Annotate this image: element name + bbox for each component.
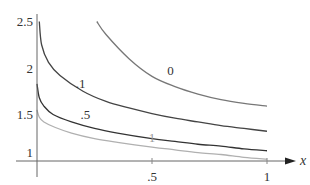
x-axis-label: x	[299, 153, 307, 168]
curve-label-3: 1	[149, 130, 156, 145]
chart: x .51 11.522.5 0.1.51	[0, 0, 310, 185]
y-tick-label: 1	[27, 145, 34, 160]
y-tick-label: 2	[27, 61, 34, 76]
y-ticks-group: 11.522.5	[17, 14, 33, 160]
y-tick-label: 1.5	[17, 107, 33, 122]
x-tick-label: .5	[147, 169, 157, 184]
curve-label-0: 0	[167, 63, 174, 78]
curve-label-2: .5	[80, 107, 90, 122]
curve-labels-group: 0.1.51	[76, 63, 174, 145]
curve-label-1: .1	[76, 76, 86, 91]
y-tick-label: 2.5	[17, 14, 33, 29]
x-axis-arrow-icon	[285, 158, 296, 165]
x-ticks-group: .51	[147, 158, 270, 184]
axes-group: x	[16, 14, 307, 177]
x-tick-label: 1	[264, 169, 271, 184]
curve-0	[97, 22, 267, 107]
